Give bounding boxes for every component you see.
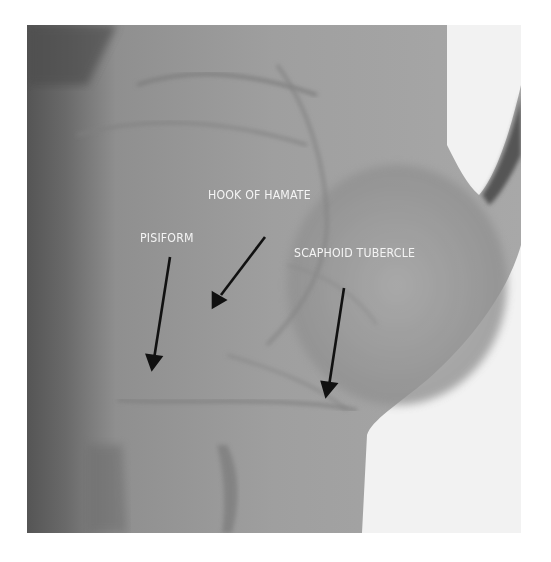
wrist-photo <box>27 25 521 533</box>
label-pisiform: PISIFORM <box>140 230 194 245</box>
wrist-photo-image <box>27 25 521 533</box>
label-hook-of-hamate: HOOK OF HAMATE <box>208 187 311 202</box>
label-scaphoid-tubercle: SCAPHOID TUBERCLE <box>294 245 415 260</box>
